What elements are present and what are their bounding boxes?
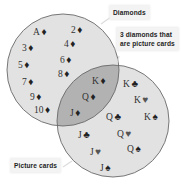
- card-9-diamonds: 9♦: [30, 91, 41, 103]
- card-ace-diamonds: A♦: [33, 26, 46, 38]
- card-jack-spades: J♠: [100, 162, 111, 174]
- card-king-hearts: K♥: [134, 94, 148, 106]
- heart-icon: ♥: [125, 128, 131, 139]
- card-rank: 9: [30, 92, 35, 102]
- diamond-icon: ♦: [90, 91, 95, 102]
- card-rank: A: [33, 27, 40, 37]
- card-king-spades: K♠: [144, 111, 158, 123]
- card-rank: K: [123, 79, 130, 89]
- card-jack-clubs: J♣: [78, 129, 90, 141]
- spade-icon: ♠: [135, 143, 140, 154]
- club-icon: ♣: [114, 111, 121, 122]
- card-8-diamonds: 8♦: [58, 68, 69, 80]
- heart-icon: ♥: [95, 146, 101, 157]
- picture-cards-connector: [63, 161, 72, 167]
- card-rank: Q: [106, 112, 113, 122]
- card-rank: 10: [34, 105, 44, 115]
- picture-cards-label-text: Picture cards: [14, 161, 57, 170]
- card-rank: 3: [22, 43, 27, 53]
- card-10-diamonds: 10♦: [34, 104, 50, 116]
- card-rank: 7: [22, 77, 27, 87]
- spade-icon: ♠: [152, 111, 157, 122]
- card-rank: J: [70, 108, 74, 118]
- spade-icon: ♠: [105, 162, 110, 173]
- diamond-icon: ♦: [70, 38, 75, 49]
- diamond-icon: ♦: [24, 59, 29, 70]
- card-king-clubs: K♣: [123, 78, 138, 90]
- diamond-icon: ♦: [28, 42, 33, 53]
- diamonds-label-text: Diamonds: [113, 8, 146, 17]
- picture-cards-label: Picture cards: [11, 159, 60, 172]
- card-rank: 5: [18, 60, 23, 70]
- intersection-label: 3 diamonds that are picture cards: [117, 28, 178, 50]
- card-rank: K: [92, 76, 99, 86]
- card-queen-diamonds: Q♦: [82, 91, 95, 103]
- card-queen-clubs: Q♣: [106, 111, 121, 123]
- intersection-label-line1: 3 diamonds that: [120, 30, 175, 39]
- diamond-icon: ♦: [64, 68, 69, 79]
- card-jack-hearts: J♥: [90, 146, 101, 158]
- diamond-icon: ♦: [77, 24, 82, 35]
- intersection-label-line2: are picture cards: [120, 39, 175, 48]
- card-king-diamonds: K♦: [92, 75, 105, 87]
- card-2-diamonds: 2♦: [71, 24, 82, 36]
- diamond-icon: ♦: [36, 91, 41, 102]
- card-rank: K: [134, 95, 141, 105]
- card-queen-spades: Q♠: [127, 143, 141, 155]
- card-rank: J: [100, 163, 104, 173]
- heart-icon: ♥: [142, 94, 148, 105]
- club-icon: ♣: [131, 78, 138, 89]
- card-rank: 6: [60, 55, 65, 65]
- diamond-icon: ♦: [45, 104, 50, 115]
- diamond-icon: ♦: [66, 54, 71, 65]
- card-3-diamonds: 3♦: [22, 42, 33, 54]
- card-5-diamonds: 5♦: [18, 59, 29, 71]
- card-rank: Q: [117, 129, 124, 139]
- card-rank: Q: [127, 144, 134, 154]
- diamonds-label: Diamonds: [110, 6, 149, 19]
- card-jack-diamonds: J♦: [70, 107, 80, 119]
- card-rank: 8: [58, 69, 63, 79]
- card-rank: J: [78, 130, 82, 140]
- card-6-diamonds: 6♦: [60, 54, 71, 66]
- card-rank: Q: [82, 92, 89, 102]
- diamond-icon: ♦: [28, 76, 33, 87]
- card-rank: 2: [71, 25, 76, 35]
- diamond-icon: ♦: [100, 75, 105, 86]
- card-rank: J: [90, 147, 94, 157]
- card-queen-hearts: Q♥: [117, 128, 131, 140]
- venn-diagram: A♦ 2♦ 3♦ 4♦ 5♦ 6♦ 7♦ 8♦ 9♦ 10♦ K♦ Q♦ J♦ …: [0, 0, 184, 188]
- card-4-diamonds: 4♦: [64, 38, 75, 50]
- card-7-diamonds: 7♦: [22, 76, 33, 88]
- card-rank: 4: [64, 39, 69, 49]
- club-icon: ♣: [83, 129, 90, 140]
- card-rank: K: [144, 112, 151, 122]
- diamond-icon: ♦: [75, 107, 80, 118]
- diamond-icon: ♦: [41, 26, 46, 37]
